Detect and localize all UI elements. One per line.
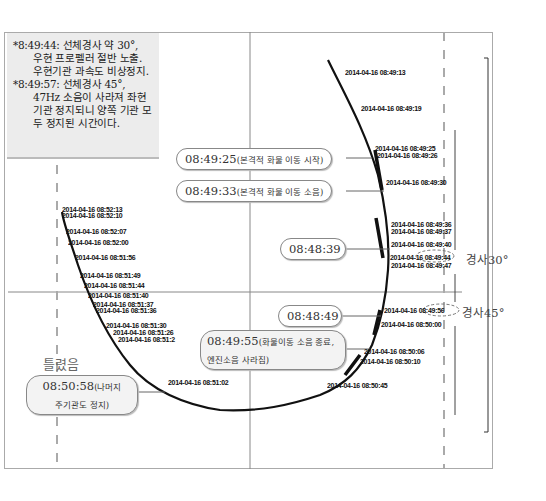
timestamp-label: 2014-04-16 08:51:44 (84, 281, 144, 290)
callout-time: 08:48:49 (287, 309, 339, 323)
note-lead: *8:49:44: 선체경사 약 30°, (13, 39, 153, 52)
callout-084839: 08:48:39 (280, 238, 346, 260)
timestamp-label: 2014-04-16 08:49:47 (391, 261, 451, 270)
timestamp-label: 2014-04-16 08:50:00 (381, 320, 441, 329)
timestamp-label: 2014-04-16 08:51:2 (118, 335, 175, 344)
callout-desc: (화물이동 소음 종료, (259, 337, 334, 347)
timestamp-label: 2014-04-16 08:49:56 (384, 306, 444, 315)
timestamp-label: 2014-04-16 08:49:37 (391, 227, 451, 236)
callout-desc: (나머지 (94, 382, 121, 392)
timestamp-label: 2014-04-16 08:52:00 (68, 238, 128, 247)
timestamp-label: 2014-04-16 08:52:10 (62, 211, 122, 220)
callout-085058: 08:50:58(나머지 주기관도 정지) (26, 375, 138, 415)
wrong-label: 틀렸음 (43, 354, 79, 373)
timestamp-label: 2014-04-16 08:49:40 (391, 240, 451, 249)
timestamp-label: 2014-04-16 08:50:06 (364, 347, 424, 356)
timestamp-label: 2014-04-16 08:49:13 (345, 68, 405, 77)
timestamp-label: 2014-04-16 08:49:30 (386, 178, 446, 187)
callout-time: 08:48:39 (289, 242, 341, 256)
note-body: 우현 프로펠러 절반 노출. 우현기관 과속도 비상정지. (13, 52, 153, 78)
timestamp-label: 2014-04-16 08:51:02 (168, 378, 228, 387)
right-bracket (484, 58, 488, 432)
callout-desc: (본격적 화물 이동 시작) (237, 155, 324, 165)
timestamp-label: 2014-04-16 08:52:07 (66, 227, 126, 236)
callout-time: 08:49:25 (185, 152, 237, 166)
callout-time: 08:49:33 (185, 184, 237, 198)
callout-time: 08:50:58 (43, 379, 95, 393)
callout-desc2: 엔진소음 사라짐) (207, 355, 269, 365)
callout-084933: 08:49:33(본격적 화물 이동 소음) (176, 180, 332, 202)
callout-desc: (본격적 화물 이동 소음) (237, 187, 324, 197)
annotation-note: *8:49:44: 선체경사 약 30°, 우현 프로펠러 절반 노출. 우현기… (7, 33, 159, 159)
note-item-1: *8:49:44: 선체경사 약 30°, 우현 프로펠러 절반 노출. 우현기… (13, 39, 153, 78)
timestamp-label: 2014-04-16 08:49:19 (361, 104, 421, 113)
callout-084955: 08:49:55(화물이동 소음 종료, 엔진소음 사라짐) (200, 330, 346, 370)
timestamp-label: 2014-04-16 08:49:26 (377, 151, 437, 160)
note-item-2: *8:49:57: 선체경사 45°, 47Hz 소음이 사라져 좌현기관 정지… (13, 78, 153, 130)
callout-desc2: 주기관도 정지) (55, 400, 109, 410)
timestamp-label: 2014-04-16 08:50:10 (360, 357, 420, 366)
timestamp-label: 2014-04-16 08:51:56 (75, 253, 135, 262)
callout-084849: 08:48:49 (278, 305, 342, 327)
timestamp-label: 2014-04-16 08:51:36 (96, 306, 156, 315)
timestamp-label: 2014-04-16 08:51:49 (80, 271, 140, 280)
angle-30-label: 경사30° (466, 251, 508, 267)
angle-45-label: 경사45° (462, 304, 504, 320)
note-lead: *8:49:57: 선체경사 45°, (13, 78, 153, 91)
timestamp-label: 2014-04-16 08:51:40 (88, 291, 148, 300)
callout-time: 08:49:55 (207, 334, 259, 348)
callout-084925: 08:49:25(본격적 화물 이동 시작) (176, 148, 332, 170)
timestamp-label: 2014-04-16 08:50:45 (327, 381, 387, 390)
note-body: 47Hz 소음이 사라져 좌현기관 정지되니 양쪽 기관 모두 정지된 시간이다… (13, 91, 153, 130)
